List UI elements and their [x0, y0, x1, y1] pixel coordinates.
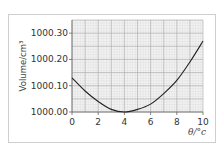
y-tick-label: 1000.20 — [31, 54, 68, 64]
y-tick-labels: 1000.001000.101000.201000.30 — [31, 28, 72, 117]
volume-temperature-chart: 1000.001000.101000.201000.30 0246810 Vol… — [0, 0, 224, 150]
y-tick-label: 1000.30 — [31, 28, 68, 38]
x-tick-label: 10 — [197, 117, 209, 127]
y-axis-label: Volume/cm³ — [18, 41, 28, 92]
plot-area — [72, 20, 203, 112]
x-axis-label: θ/°c — [188, 127, 206, 137]
x-tick-label: 8 — [174, 117, 180, 127]
x-tick-label: 2 — [95, 117, 101, 127]
y-tick-label: 1000.00 — [31, 107, 68, 117]
x-tick-label: 0 — [69, 117, 75, 127]
x-tick-label: 4 — [122, 117, 128, 127]
x-tick-labels: 0246810 — [69, 112, 209, 127]
y-tick-label: 1000.10 — [31, 81, 68, 91]
x-tick-label: 6 — [148, 117, 154, 127]
